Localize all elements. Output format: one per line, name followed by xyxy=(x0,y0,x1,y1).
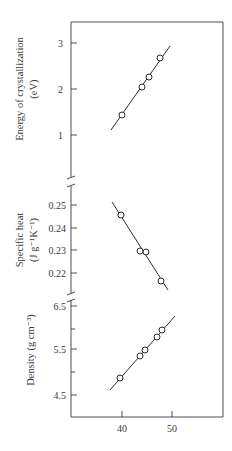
y-tick-label: 2 xyxy=(58,84,63,95)
data-point-density xyxy=(154,334,160,340)
y-tick-label: 1 xyxy=(58,130,63,141)
data-point-energy xyxy=(146,74,152,80)
y-tick-label: 4.5 xyxy=(54,390,67,401)
y-tick-label: 0.22 xyxy=(49,268,67,279)
x-tick-label: 40 xyxy=(117,423,127,434)
y-axis-unit-specific-heat: (J g⁻¹K⁻¹) xyxy=(28,218,40,262)
data-point-energy xyxy=(157,55,163,61)
y-tick-label: 6.5 xyxy=(54,301,67,312)
y-axis-title-energy: Energy of crystallization xyxy=(14,36,25,140)
data-point-energy xyxy=(119,112,125,118)
data-point-specific-heat xyxy=(158,278,164,284)
data-point-specific-heat xyxy=(118,212,124,218)
y-axis-unit-energy: (eV) xyxy=(28,79,40,99)
y-tick-label: 0.25 xyxy=(49,200,67,211)
y-axis-title-density: Density (g cm⁻³) xyxy=(25,314,37,386)
data-point-density xyxy=(117,375,123,381)
data-point-density xyxy=(159,327,165,333)
data-point-specific-heat xyxy=(137,248,143,254)
y-tick-label: 5.5 xyxy=(54,344,67,355)
data-point-density xyxy=(137,353,143,359)
x-tick-label: 50 xyxy=(167,423,177,434)
data-point-energy xyxy=(139,84,145,90)
chart: 3 2 1 0.25 0.24 0.23 0.22 6.5 5.5 4.5 40… xyxy=(0,0,232,451)
y-tick-label: 3 xyxy=(58,38,63,49)
data-point-specific-heat xyxy=(143,249,149,255)
y-tick-label: 0.23 xyxy=(49,245,67,256)
data-point-density xyxy=(142,347,148,353)
y-tick-label: 0.24 xyxy=(49,223,67,234)
y-axis-title-specific-heat: Specific heat xyxy=(14,213,25,268)
